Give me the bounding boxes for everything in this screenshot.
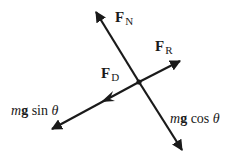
- gravity-symbol: g: [180, 111, 187, 126]
- force-symbol: F: [101, 65, 110, 81]
- resistance-force-arrow: [139, 61, 180, 82]
- label-weight-perpendicular: mg cos θ: [170, 112, 220, 126]
- force-subscript: R: [165, 44, 172, 56]
- label-weight-parallel: mg sin θ: [11, 104, 58, 118]
- force-subscript: N: [125, 15, 133, 27]
- angle-symbol: θ: [213, 111, 220, 126]
- label-normal-force: FN: [115, 10, 133, 27]
- force-subscript: D: [111, 71, 119, 83]
- angle-symbol: θ: [51, 103, 58, 118]
- mass-symbol: m: [11, 103, 21, 118]
- weight-parallel-arrow: [52, 82, 139, 129]
- trig-function: cos: [191, 111, 210, 126]
- mass-symbol: m: [170, 111, 180, 126]
- force-symbol: F: [155, 38, 164, 54]
- trig-function: sin: [32, 103, 48, 118]
- label-drag-force: FD: [101, 66, 119, 83]
- label-resistance-force: FR: [155, 39, 173, 56]
- body-point: [136, 79, 141, 84]
- force-symbol: F: [115, 9, 124, 25]
- gravity-symbol: g: [21, 103, 28, 118]
